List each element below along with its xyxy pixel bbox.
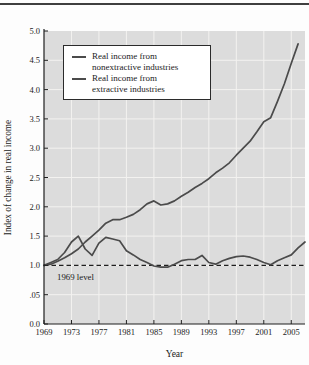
legend-label-extractive: Real income from extractive industries [92, 73, 165, 95]
y-tick-label: 3.0 [29, 143, 40, 153]
legend-item-extractive: Real income from extractive industries [72, 73, 206, 95]
x-tick-label: 1993 [200, 327, 217, 337]
y-tick-label: 2.0 [29, 202, 40, 212]
y-tick-label: 4.0 [29, 85, 40, 95]
legend: Real income from nonextractive industrie… [63, 45, 211, 100]
legend-label-line: nonextractive industries [92, 62, 178, 73]
x-tick-label: 1989 [173, 327, 190, 337]
legend-label-nonextractive: Real income from nonextractive industrie… [92, 51, 178, 73]
x-tick-label: 2001 [255, 327, 272, 337]
legend-label-line: extractive industries [92, 84, 165, 95]
reference-annotation: 1969 level [57, 272, 94, 282]
x-tick-label: 2005 [283, 327, 300, 337]
y-tick-label: .05 [29, 290, 40, 300]
nonextractive-line-swatch-icon [72, 56, 86, 58]
y-tick-label: 1.0 [29, 260, 40, 270]
x-tick-label: 1997 [228, 327, 245, 337]
legend-item-nonextractive: Real income from nonextractive industrie… [72, 51, 206, 73]
y-tick-label: 0.0 [29, 319, 40, 329]
y-tick-label: 1.5 [29, 231, 40, 241]
x-tick-label: 1985 [145, 327, 162, 337]
y-tick-label: 5.0 [29, 26, 40, 36]
y-tick-label: 4.5 [29, 55, 40, 65]
x-tick-label: 1981 [118, 327, 135, 337]
x-tick-label: 1977 [90, 327, 107, 337]
legend-label-line: Real income from [92, 73, 165, 84]
legend-label-line: Real income from [92, 51, 178, 62]
figure: 1969197319771981198519891993199720012005… [0, 0, 309, 365]
y-tick-label: 2.5 [29, 173, 40, 183]
extractive-line-swatch-icon [72, 78, 86, 80]
x-axis-title: Year [166, 349, 184, 359]
y-tick-label: 3.5 [29, 114, 40, 124]
y-axis-title: Index of change in real income [3, 120, 13, 235]
x-tick-label: 1973 [63, 327, 80, 337]
